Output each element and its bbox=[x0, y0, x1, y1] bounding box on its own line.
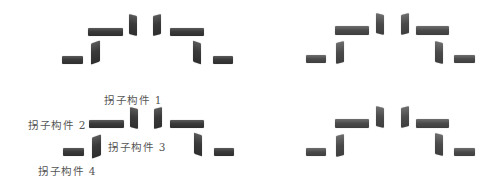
upright-piece-left bbox=[129, 14, 137, 36]
label-component-1: 拐子构件 1 bbox=[104, 92, 163, 107]
tilted-piece-left bbox=[92, 134, 101, 158]
upright-piece-right bbox=[154, 107, 162, 129]
tilted-piece-left bbox=[91, 40, 100, 64]
view-bottom-right bbox=[251, 91, 502, 182]
tilted-piece-right bbox=[194, 133, 202, 157]
small-bar-left bbox=[306, 55, 326, 63]
tilted-piece-right bbox=[193, 41, 201, 65]
long-bar-left bbox=[335, 119, 369, 128]
long-bar-right bbox=[416, 26, 449, 35]
small-bar-left bbox=[306, 148, 326, 156]
tilted-piece-right bbox=[435, 133, 443, 156]
small-bar-right bbox=[213, 56, 233, 64]
long-bar-right bbox=[170, 28, 204, 36]
long-bar-left bbox=[89, 120, 124, 128]
upright-piece-right bbox=[153, 14, 161, 36]
view-bottom-left: 拐子构件 1 拐子构件 2 拐子构件 3 拐子构件 4 bbox=[0, 91, 251, 182]
tilted-piece-left bbox=[336, 134, 344, 157]
long-bar-right bbox=[416, 119, 449, 128]
small-bar-left bbox=[62, 56, 83, 64]
small-bar-right bbox=[454, 55, 475, 63]
small-bar-right bbox=[454, 148, 475, 156]
small-bar-right bbox=[214, 148, 234, 156]
view-top-left bbox=[0, 0, 251, 91]
upright-piece-left bbox=[376, 13, 384, 35]
view-top-right bbox=[251, 0, 502, 91]
label-component-2: 拐子构件 2 bbox=[28, 117, 87, 132]
long-bar-right bbox=[170, 120, 204, 128]
long-bar-left bbox=[335, 26, 369, 35]
upright-piece-left bbox=[130, 107, 138, 129]
small-bar-left bbox=[63, 148, 84, 156]
tilted-piece-left bbox=[336, 41, 344, 64]
tilted-piece-right bbox=[435, 41, 443, 64]
label-component-3: 拐子构件 3 bbox=[108, 139, 167, 154]
label-component-4: 拐子构件 4 bbox=[38, 163, 97, 178]
long-bar-left bbox=[88, 28, 123, 36]
upright-piece-left bbox=[376, 106, 384, 128]
upright-piece-right bbox=[401, 13, 409, 35]
upright-piece-right bbox=[401, 106, 409, 128]
